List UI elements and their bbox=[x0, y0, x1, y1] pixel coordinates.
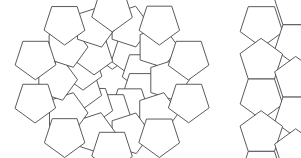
rosette-tile-group bbox=[15, 0, 209, 158]
pentagon-tile bbox=[92, 132, 132, 158]
pentagon-tile bbox=[139, 119, 179, 157]
pentagon-tile bbox=[44, 119, 84, 157]
figure-canvas bbox=[0, 0, 301, 158]
pentagonal-rosette-figure bbox=[0, 0, 301, 158]
pentagon-tile bbox=[240, 151, 282, 158]
pentagon-column-tile-group bbox=[240, 0, 301, 158]
